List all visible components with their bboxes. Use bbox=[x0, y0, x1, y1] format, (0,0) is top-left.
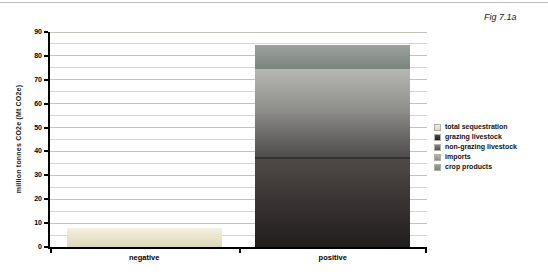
y-tick-label-70: 70 bbox=[20, 76, 42, 84]
legend-label-total-sequestration: total sequestration bbox=[445, 123, 508, 131]
bar-segment-grazing-livestock bbox=[255, 157, 410, 247]
figure: Fig 7.1a million tonnes CO2e (Mt CO2e) t… bbox=[0, 0, 548, 279]
legend-label-grazing-livestock: grazing livestock bbox=[445, 133, 502, 141]
y-tick-mark-40 bbox=[44, 150, 48, 152]
y-tick-label-50: 50 bbox=[20, 124, 42, 132]
legend-swatch-total-sequestration bbox=[434, 124, 441, 131]
figure-label: Fig 7.1a bbox=[484, 12, 517, 22]
x-tick-mark-2 bbox=[425, 249, 427, 253]
legend-label-crop-products: crop products bbox=[445, 163, 492, 171]
y-tick-label-80: 80 bbox=[20, 52, 42, 60]
y-tick-label-10: 10 bbox=[20, 219, 42, 227]
y-tick-label-40: 40 bbox=[20, 147, 42, 155]
legend-item-grazing-livestock: grazing livestock bbox=[434, 132, 517, 142]
bar-positive bbox=[255, 32, 410, 247]
bar-segment-total-sequestration bbox=[67, 228, 222, 247]
y-tick-mark-80 bbox=[44, 55, 48, 57]
bar-negative bbox=[67, 32, 222, 247]
legend-label-imports: imports bbox=[445, 153, 471, 161]
x-tick-mark-0 bbox=[50, 249, 52, 253]
legend-swatch-crop-products bbox=[434, 164, 441, 171]
y-tick-mark-30 bbox=[44, 174, 48, 176]
legend-swatch-non-grazing-livestock bbox=[434, 144, 441, 151]
legend-item-total-sequestration: total sequestration bbox=[434, 122, 517, 132]
x-category-label-positive: positive bbox=[319, 253, 347, 262]
y-tick-label-60: 60 bbox=[20, 100, 42, 108]
y-tick-mark-60 bbox=[44, 103, 48, 105]
x-tick-mark-1 bbox=[239, 249, 241, 253]
bar-segment-imports bbox=[255, 69, 410, 113]
bar-segment-crop-products bbox=[255, 45, 410, 69]
y-tick-mark-20 bbox=[44, 198, 48, 200]
plot-area bbox=[48, 32, 427, 249]
y-tick-mark-70 bbox=[44, 79, 48, 81]
y-tick-mark-0 bbox=[44, 246, 48, 248]
legend-item-imports: imports bbox=[434, 152, 517, 162]
y-tick-mark-10 bbox=[44, 222, 48, 224]
bar-segment-non-grazing-livestock bbox=[255, 113, 410, 157]
legend-swatch-imports bbox=[434, 154, 441, 161]
y-tick-label-20: 20 bbox=[20, 195, 42, 203]
legend-label-non-grazing-livestock: non-grazing livestock bbox=[445, 143, 517, 151]
legend-item-crop-products: crop products bbox=[434, 162, 517, 172]
y-tick-mark-90 bbox=[44, 31, 48, 33]
legend-swatch-grazing-livestock bbox=[434, 134, 441, 141]
figure-top-rule bbox=[0, 2, 548, 3]
legend-item-non-grazing-livestock: non-grazing livestock bbox=[434, 142, 517, 152]
y-tick-label-0: 0 bbox=[20, 243, 42, 251]
legend: total sequestrationgrazing livestocknon-… bbox=[434, 122, 517, 172]
x-category-label-negative: negative bbox=[129, 253, 159, 262]
y-tick-label-30: 30 bbox=[20, 171, 42, 179]
y-tick-mark-50 bbox=[44, 127, 48, 129]
y-tick-label-90: 90 bbox=[20, 28, 42, 36]
